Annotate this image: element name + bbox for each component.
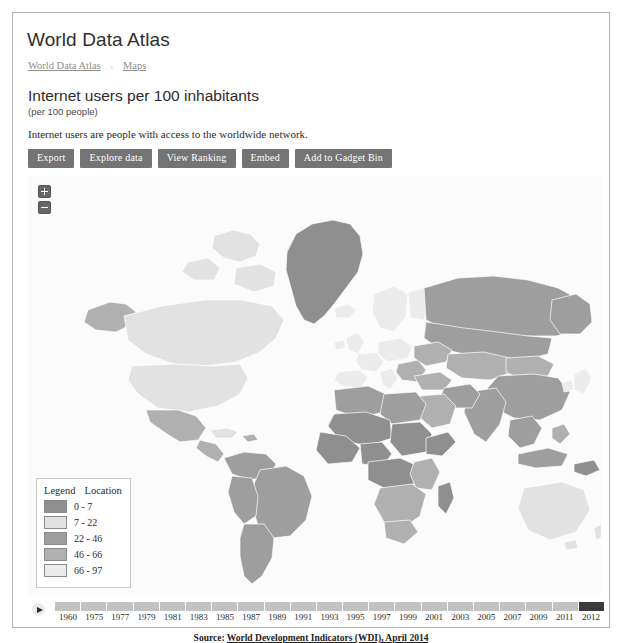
legend-label-3: 46 - 66 (74, 549, 102, 560)
timeline-year-1977[interactable]: 1977 (107, 612, 133, 622)
legend-swatch-4 (44, 564, 67, 577)
timeline-tick-1989[interactable] (265, 602, 290, 611)
choropleth-map[interactable]: LegendLocation 0 - 7 7 - 22 22 - 46 46 -… (28, 176, 601, 596)
map-legend: LegendLocation 0 - 7 7 - 22 22 - 46 46 -… (36, 478, 131, 588)
embed-button[interactable]: Embed (242, 149, 289, 168)
timeline-year-1987[interactable]: 1987 (238, 612, 264, 622)
timeline-tick-1993[interactable] (317, 602, 342, 611)
timeline-tick-1983[interactable] (186, 602, 211, 611)
timeline-tick-1995[interactable] (343, 602, 368, 611)
legend-label-0: 0 - 7 (74, 501, 92, 512)
timeline-year-1960[interactable]: 1960 (55, 612, 81, 622)
breadcrumb-item-maps[interactable]: Maps (123, 60, 146, 71)
zoom-in-icon[interactable] (38, 185, 51, 198)
timeline-year-1975[interactable]: 1975 (81, 612, 107, 622)
timeline-tick-2012[interactable] (579, 602, 604, 611)
timeline-year-1979[interactable]: 1979 (133, 612, 159, 622)
timeline-tick-2011[interactable] (553, 602, 578, 611)
indicator-description: Internet users are people with access to… (28, 128, 597, 140)
play-icon[interactable] (32, 603, 45, 616)
timeline-year-1999[interactable]: 1999 (395, 612, 421, 622)
toolbar: Export Explore data View Ranking Embed A… (28, 149, 597, 168)
breadcrumb-separator-icon: › (110, 61, 113, 71)
export-button[interactable]: Export (28, 149, 74, 168)
source-line: Source: World Development Indicators (WD… (25, 633, 597, 643)
timeline-tick-1997[interactable] (369, 602, 394, 611)
explore-data-button[interactable]: Explore data (80, 149, 151, 168)
legend-swatch-3 (44, 548, 67, 561)
legend-label-2: 22 - 46 (74, 533, 102, 544)
indicator-title: Internet users per 100 inhabitants (28, 87, 597, 105)
timeline-year-1993[interactable]: 1993 (316, 612, 342, 622)
timeline-track[interactable] (55, 602, 604, 611)
legend-swatch-2 (44, 532, 67, 545)
map-zoom-controls[interactable] (38, 185, 51, 217)
country-ireland (334, 340, 346, 350)
timeline-tick-1991[interactable] (291, 602, 316, 611)
legend-swatch-0 (44, 500, 67, 513)
timeline-tick-2005[interactable] (474, 602, 499, 611)
timeline-year-2009[interactable]: 2009 (526, 612, 552, 622)
page-title: World Data Atlas (27, 29, 597, 51)
legend-label-4: 66 - 97 (74, 565, 102, 576)
legend-item[interactable]: 0 - 7 (44, 500, 122, 513)
legend-header: LegendLocation (44, 485, 122, 496)
timeline-year-2012[interactable]: 2012 (578, 612, 604, 622)
timeline-year-2005[interactable]: 2005 (473, 612, 499, 622)
timeline-tick-1960[interactable] (55, 602, 80, 611)
timeline-year-2001[interactable]: 2001 (421, 612, 447, 622)
timeline-tick-2007[interactable] (500, 602, 525, 611)
year-timeline[interactable]: 1960197519771979198119831985198719891991… (28, 601, 606, 631)
timeline-year-2011[interactable]: 2011 (552, 612, 578, 622)
legend-header-right: Location (85, 485, 122, 496)
country-korea (562, 380, 574, 392)
timeline-tick-1981[interactable] (160, 602, 185, 611)
indicator-subtitle: (per 100 people) (28, 106, 597, 117)
timeline-year-2003[interactable]: 2003 (447, 612, 473, 622)
view-ranking-button[interactable]: View Ranking (158, 149, 236, 168)
legend-item[interactable]: 46 - 66 (44, 548, 122, 561)
timeline-year-labels: 1960197519771979198119831985198719891991… (55, 612, 604, 622)
breadcrumb-item-home[interactable]: World Data Atlas (28, 60, 101, 71)
timeline-tick-1977[interactable] (107, 602, 132, 611)
breadcrumb: World Data Atlas › Maps (28, 60, 597, 71)
timeline-tick-1999[interactable] (395, 602, 420, 611)
timeline-year-1989[interactable]: 1989 (264, 612, 290, 622)
legend-label-1: 7 - 22 (74, 517, 97, 528)
add-to-gadget-bin-button[interactable]: Add to Gadget Bin (295, 149, 392, 168)
legend-swatch-1 (44, 516, 67, 529)
legend-item[interactable]: 66 - 97 (44, 564, 122, 577)
timeline-tick-1979[interactable] (134, 602, 159, 611)
timeline-tick-2001[interactable] (422, 602, 447, 611)
page-container: World Data Atlas World Data Atlas › Maps… (12, 12, 610, 628)
timeline-tick-2009[interactable] (526, 602, 551, 611)
timeline-tick-1987[interactable] (238, 602, 263, 611)
zoom-out-icon[interactable] (38, 201, 51, 214)
timeline-tick-1985[interactable] (212, 602, 237, 611)
source-link[interactable]: World Development Indicators (WDI), Apri… (227, 633, 429, 643)
legend-item[interactable]: 22 - 46 (44, 532, 122, 545)
legend-item[interactable]: 7 - 22 (44, 516, 122, 529)
timeline-year-1991[interactable]: 1991 (290, 612, 316, 622)
timeline-year-1997[interactable]: 1997 (369, 612, 395, 622)
source-prefix: Source: (194, 633, 227, 643)
timeline-tick-1975[interactable] (81, 602, 106, 611)
timeline-year-1985[interactable]: 1985 (212, 612, 238, 622)
timeline-year-2007[interactable]: 2007 (499, 612, 525, 622)
timeline-year-1995[interactable]: 1995 (343, 612, 369, 622)
timeline-year-1983[interactable]: 1983 (186, 612, 212, 622)
country-tasmania (564, 540, 578, 550)
legend-header-left: Legend (44, 485, 76, 496)
timeline-tick-2003[interactable] (448, 602, 473, 611)
timeline-year-1981[interactable]: 1981 (160, 612, 186, 622)
